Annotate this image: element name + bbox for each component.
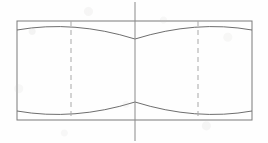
- bottom-left-chamfer-arc: [17, 102, 135, 114]
- hex-nut-front-view-drawing: [0, 0, 268, 143]
- bottom-right-chamfer-arc: [135, 102, 252, 114]
- technical-drawing-canvas: [0, 0, 268, 143]
- top-left-chamfer-arc: [17, 27, 135, 39]
- top-right-chamfer-arc: [135, 27, 252, 39]
